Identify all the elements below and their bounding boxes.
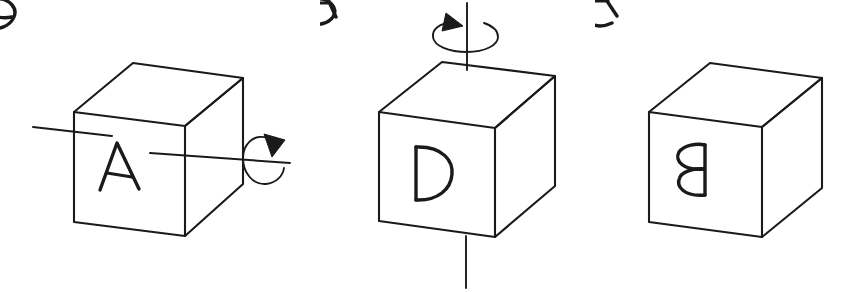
cube-3-face-top-letter-A: [595, 0, 617, 16]
figure-canvas: A C B D A B B A C: [0, 0, 845, 292]
cube-2-outline: [379, 62, 555, 237]
rotation-arrow-counterclockwise: [433, 13, 498, 52]
cube-1-face-right-letter-B: [0, 0, 15, 28]
panel-2-cube-after-first-rotation: [320, 0, 595, 292]
cube-3-outline: [649, 63, 822, 237]
cube-1-outline: [74, 63, 243, 236]
cube-1-face-front-letter-A: [100, 143, 139, 190]
cube-2-face-front-letter-D: [416, 147, 452, 200]
panel-1-cube-initial-state: [0, 0, 320, 292]
arrowhead-icon: [264, 134, 285, 157]
rotation-arrow-clockwise: [243, 134, 285, 184]
panel-3-cube-final-state: [595, 0, 845, 292]
vertical-rotation-axis: [466, 3, 467, 288]
cube-3-face-front-letter-B: [678, 144, 705, 195]
arrowhead-icon: [442, 13, 463, 31]
horizontal-rotation-axis: [33, 127, 290, 163]
